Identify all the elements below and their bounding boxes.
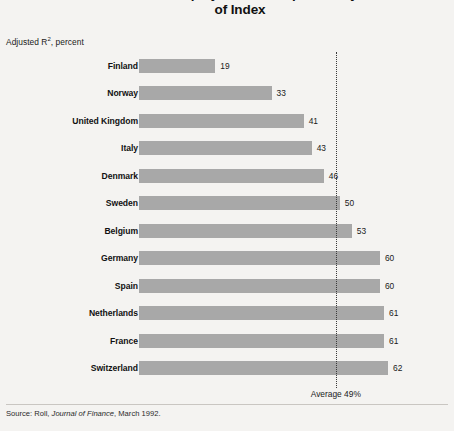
bar-track: 60: [139, 279, 389, 293]
bar-value-label: 50: [345, 198, 354, 208]
bar-value-label: 62: [393, 363, 402, 373]
source-prefix: Source: Roll,: [6, 409, 52, 418]
bar-track: 61: [139, 334, 389, 348]
bar-category-label: Italy: [121, 143, 138, 153]
bar-row: France61: [0, 327, 454, 355]
bar-row: Germany60: [0, 245, 454, 273]
bar-track: 33: [139, 86, 389, 100]
bar-category-label: Switzerland: [91, 363, 138, 373]
bar-row: Italy43: [0, 135, 454, 163]
bar-category-label: Sweden: [106, 198, 138, 208]
bar-track: 43: [139, 141, 389, 155]
bar-track: 50: [139, 196, 389, 210]
bar-row: United Kingdom41: [0, 107, 454, 135]
source-note: Source: Roll, Journal of Finance, March …: [6, 409, 161, 418]
bar-value-label: 60: [385, 281, 394, 291]
bar-category-label: Finland: [108, 61, 138, 71]
bar-row: Spain60: [0, 272, 454, 300]
bar-track: 60: [139, 251, 389, 265]
axis-caption-suffix: , percent: [51, 37, 84, 47]
bar-row: Finland19: [0, 52, 454, 80]
bar-row: Sweden50: [0, 190, 454, 218]
bar-track: 61: [139, 306, 389, 320]
bar: [139, 86, 272, 100]
source-suffix: , March 1992.: [114, 409, 160, 418]
bar: [139, 141, 312, 155]
bar: [139, 114, 304, 128]
chart-title: Return on Individual Equity Markets Expl…: [0, 0, 454, 18]
bar-chart-plot-area: Finland19Norway33United Kingdom41Italy43…: [0, 52, 454, 382]
bar-value-label: 61: [389, 336, 398, 346]
bar: [139, 279, 380, 293]
average-reference-line: [336, 52, 337, 388]
bar-track: 41: [139, 114, 389, 128]
bar-category-label: Netherlands: [89, 308, 138, 318]
bar-value-label: 41: [309, 116, 318, 126]
source-publication: Journal of Finance: [52, 409, 114, 418]
chart-title-line-2: of Index: [26, 2, 454, 18]
bar: [139, 59, 215, 73]
bar-value-label: 60: [385, 253, 394, 263]
bar-category-label: Germany: [101, 253, 138, 263]
bar-category-label: Belgium: [104, 226, 138, 236]
bar-category-label: Denmark: [102, 171, 138, 181]
bar-value-label: 61: [389, 308, 398, 318]
bar-value-label: 19: [220, 61, 229, 71]
bar-category-label: Spain: [115, 281, 138, 291]
bar-track: 53: [139, 224, 389, 238]
bar: [139, 224, 352, 238]
axis-caption: Adjusted R2, percent: [6, 36, 84, 47]
bar-row: Switzerland62: [0, 355, 454, 383]
average-reference-label: Average 49%: [311, 389, 361, 399]
bar-value-label: 33: [277, 88, 286, 98]
axis-caption-prefix: Adjusted R: [6, 37, 47, 47]
bar: [139, 334, 384, 348]
bar-track: 46: [139, 169, 389, 183]
footer-divider: [6, 404, 448, 405]
bar: [139, 306, 384, 320]
bar-row: Norway33: [0, 80, 454, 108]
bar-track: 19: [139, 59, 389, 73]
bar-value-label: 43: [317, 143, 326, 153]
bar-row: Belgium53: [0, 217, 454, 245]
bar-row: Netherlands61: [0, 300, 454, 328]
bar-category-label: United Kingdom: [72, 116, 138, 126]
bar: [139, 169, 324, 183]
bar-track: 62: [139, 361, 389, 375]
bar-value-label: 53: [357, 226, 366, 236]
bar: [139, 196, 340, 210]
bar-category-label: France: [110, 336, 138, 346]
bar-category-label: Norway: [107, 88, 138, 98]
bar: [139, 361, 388, 375]
bar: [139, 251, 380, 265]
bar-row: Denmark46: [0, 162, 454, 190]
